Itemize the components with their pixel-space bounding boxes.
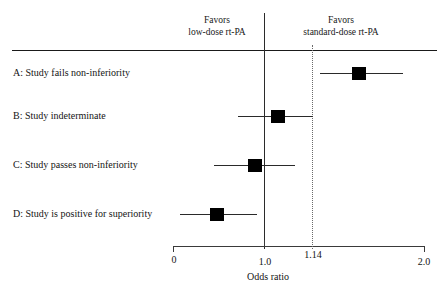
x-tick-label-114: 1.14 bbox=[297, 249, 329, 261]
favors-standard-dose-line2: standard-dose rt-PA bbox=[266, 26, 416, 38]
x-axis-title: Odds ratio bbox=[213, 271, 323, 282]
x-tick-label-2: 2.0 bbox=[411, 256, 437, 268]
x-axis-left-cap bbox=[173, 246, 174, 252]
favors-standard-dose-header: Favors standard-dose rt-PA bbox=[266, 14, 416, 38]
forest-plot-figure: Favors low-dose rt-PA Favors standard-do… bbox=[0, 0, 443, 293]
reference-line-null-effect bbox=[264, 13, 265, 249]
point-estimate-d bbox=[210, 208, 224, 221]
x-axis-tick-114 bbox=[312, 240, 313, 247]
row-label-b: B: Study indeterminate bbox=[13, 110, 106, 122]
point-estimate-b bbox=[271, 110, 285, 123]
row-label-a: A: Study fails non-inferiority bbox=[13, 67, 130, 79]
x-axis-line bbox=[173, 246, 425, 247]
x-axis-right-cap bbox=[424, 246, 425, 252]
favors-low-dose-header: Favors low-dose rt-PA bbox=[170, 14, 264, 38]
non-inferiority-margin-line bbox=[312, 45, 313, 249]
point-estimate-c bbox=[248, 159, 262, 172]
favors-low-dose-line2: low-dose rt-PA bbox=[170, 26, 264, 38]
point-estimate-a bbox=[352, 67, 366, 80]
x-axis-tick-1 bbox=[264, 240, 265, 247]
favors-standard-dose-line1: Favors bbox=[328, 15, 354, 25]
favors-low-dose-line1: Favors bbox=[204, 15, 230, 25]
x-tick-label-1: 1.0 bbox=[253, 256, 277, 268]
row-label-d: D: Study is positive for superiority bbox=[13, 208, 152, 220]
row-label-c: C: Study passes non-inferiority bbox=[13, 159, 138, 171]
header-divider-rule bbox=[12, 50, 437, 51]
x-tick-label-0: 0 bbox=[167, 254, 181, 266]
